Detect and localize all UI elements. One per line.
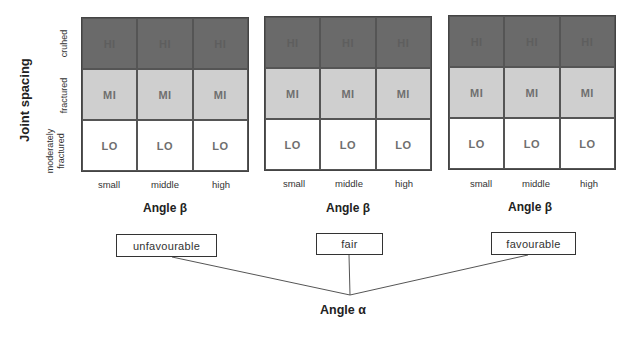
alpha-box-favourable: favourable xyxy=(491,232,576,255)
alpha-box-unfavourable: unfavourable xyxy=(116,234,217,257)
alpha-connector-lines xyxy=(0,0,630,337)
angle-alpha-label: Angle α xyxy=(320,303,366,317)
alpha-box-fair: fair xyxy=(316,233,383,255)
